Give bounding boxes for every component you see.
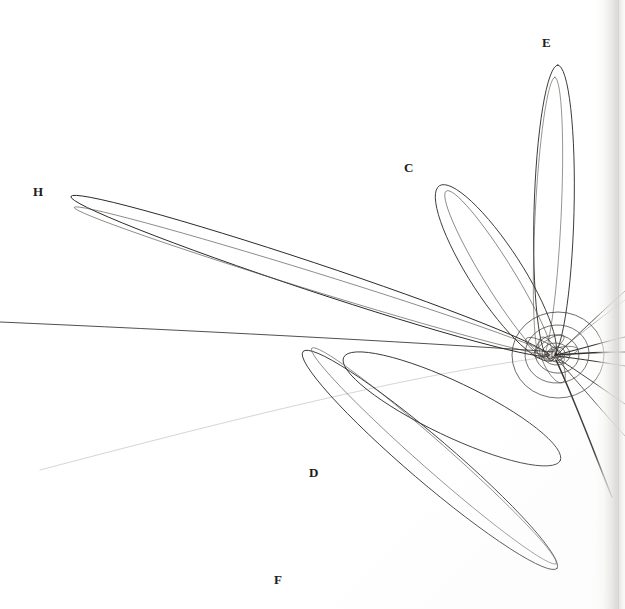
orbit-label-c: C: [404, 161, 414, 174]
comet-orbit-H: [66, 183, 553, 369]
ray-northeast: [560, 300, 625, 350]
comet-orbit-F: [289, 335, 572, 585]
orbit-label-f: F: [274, 573, 282, 586]
comet-orbit-group: [66, 65, 577, 586]
ray-west: [0, 322, 556, 352]
ray-west-lower: [40, 356, 556, 470]
comet-orbit-F-companion: [302, 338, 565, 575]
orbit-label-e: E: [542, 36, 551, 49]
orbit-label-h: H: [33, 185, 44, 198]
sun-marker: [554, 352, 557, 355]
comet-orbit-E: [530, 65, 578, 360]
comet-orbit-C-companion: [434, 183, 565, 369]
orbit-diagram: [0, 0, 625, 609]
orbit-label-d: D: [309, 466, 319, 479]
comet-orbit-plate: H C E D F: [0, 0, 625, 609]
comet-orbit-H-companion: [71, 199, 552, 363]
